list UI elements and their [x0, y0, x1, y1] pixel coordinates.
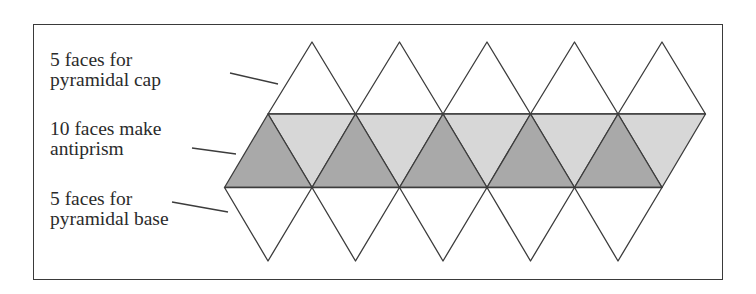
cap-face: [268, 42, 356, 114]
cap-face: [443, 42, 531, 114]
label-pyramidal-base: 5 faces for pyramidal base: [50, 189, 169, 229]
antiprism-faces: [225, 114, 706, 188]
pyramidal-base-faces: [225, 188, 663, 262]
base-face: [575, 188, 663, 262]
label-antiprism: 10 faces make antiprism: [50, 119, 162, 159]
base-face: [400, 188, 488, 262]
pyramidal-cap-faces: [268, 42, 706, 114]
label-antiprism-line-2: antiprism: [50, 139, 162, 159]
leader-line-antiprism: [192, 148, 236, 154]
base-face: [225, 188, 313, 262]
label-antiprism-line-1: 10 faces make: [50, 119, 162, 139]
label-base-line-2: pyramidal base: [50, 209, 169, 229]
label-base-line-1: 5 faces for: [50, 189, 169, 209]
label-cap-line-2: pyramidal cap: [50, 70, 161, 90]
cap-face: [618, 42, 706, 114]
label-pyramidal-cap: 5 faces for pyramidal cap: [50, 50, 161, 90]
cap-face: [531, 42, 619, 114]
leader-line-cap: [230, 73, 278, 84]
leader-line-base: [172, 202, 228, 212]
cap-face: [356, 42, 444, 114]
label-cap-line-1: 5 faces for: [50, 50, 161, 70]
base-face: [487, 188, 575, 262]
base-face: [312, 188, 400, 262]
